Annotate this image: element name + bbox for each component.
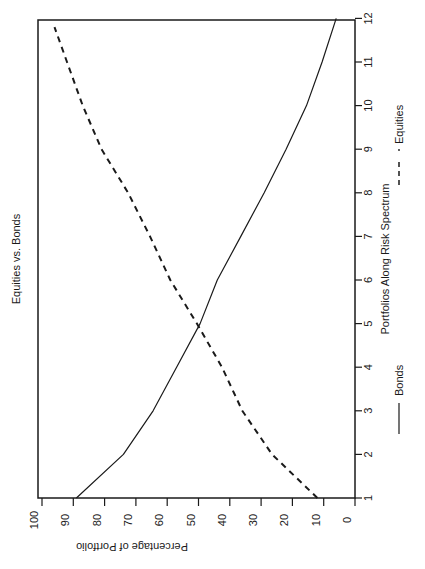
plot-frame xyxy=(38,20,355,498)
series-bonds-line xyxy=(76,18,336,498)
series-equities-line xyxy=(55,27,318,498)
x-tick-label: 6 xyxy=(362,277,374,283)
legend-bonds-label: Bonds xyxy=(393,364,405,396)
x-tick-label: 2 xyxy=(362,451,374,457)
y-axis-ticks: 0102030405060708090100 xyxy=(28,498,355,529)
y-tick-label: 100 xyxy=(28,511,40,529)
y-tick-label: 0 xyxy=(341,517,353,523)
legend-equities-dot xyxy=(398,149,400,151)
y-tick-label: 20 xyxy=(278,514,290,526)
y-tick-label: 10 xyxy=(310,514,322,526)
x-axis-ticks: 123456789101112 xyxy=(355,12,374,501)
x-tick-label: 11 xyxy=(362,56,374,67)
chart-title: Equities vs. Bonds xyxy=(10,213,22,304)
x-tick-label: 8 xyxy=(362,190,374,196)
y-tick-label: 50 xyxy=(185,514,197,526)
y-tick-label: 30 xyxy=(247,514,259,526)
x-tick-label: 9 xyxy=(362,146,374,152)
legend-equities-label: Equities xyxy=(393,104,405,144)
x-tick-label: 4 xyxy=(362,364,374,370)
x-tick-label: 1 xyxy=(362,495,374,501)
series-layer xyxy=(55,18,337,498)
line-chart: 123456789101112 0102030405060708090100 E… xyxy=(0,0,425,569)
x-axis-label: Portfolios Along Risk Spectrum xyxy=(379,183,391,334)
y-tick-label: 40 xyxy=(216,514,228,526)
x-tick-label: 7 xyxy=(362,233,374,239)
legend: Bonds Equities xyxy=(393,104,405,434)
y-axis-label: Percentage of Portfolio xyxy=(76,541,188,553)
x-tick-label: 5 xyxy=(362,321,374,327)
y-tick-label: 90 xyxy=(59,514,71,526)
chart-page: 123456789101112 0102030405060708090100 E… xyxy=(0,0,425,569)
y-tick-label: 60 xyxy=(153,514,165,526)
y-tick-label: 80 xyxy=(91,514,103,526)
x-tick-label: 12 xyxy=(362,12,374,24)
y-tick-label: 70 xyxy=(122,514,134,526)
x-tick-label: 10 xyxy=(362,99,374,111)
x-tick-label: 3 xyxy=(362,408,374,414)
